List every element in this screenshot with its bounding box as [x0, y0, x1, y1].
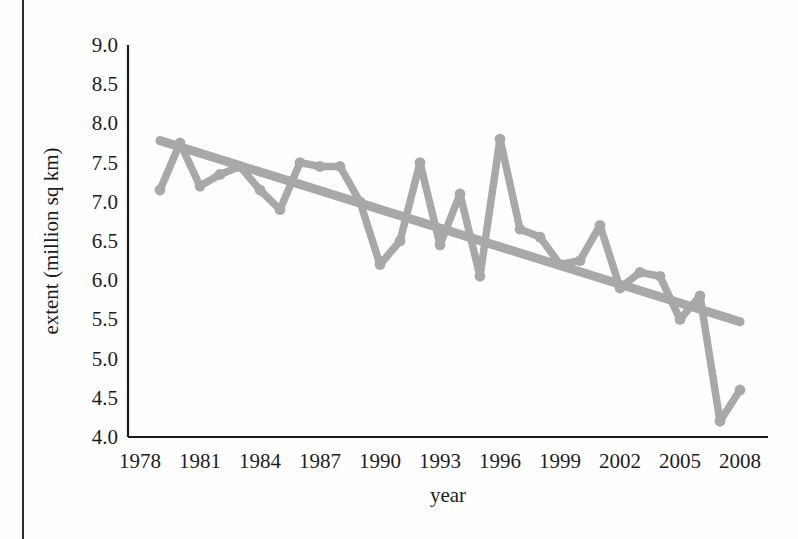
- data-point-marker: [735, 385, 746, 396]
- x-tick-label: 1984: [239, 449, 282, 473]
- data-point-marker: [475, 271, 486, 282]
- data-point-marker: [295, 157, 306, 168]
- data-point-marker: [355, 196, 366, 207]
- x-tick-label: 1978: [119, 449, 161, 473]
- y-axis-title: extent (million sq km): [39, 147, 63, 334]
- data-point-marker: [155, 185, 166, 196]
- x-tick-label: 2005: [659, 449, 701, 473]
- data-point-marker: [215, 169, 226, 180]
- data-point-marker: [255, 185, 266, 196]
- x-tick-label: 1987: [299, 449, 341, 473]
- data-point-marker: [575, 255, 586, 266]
- x-tick-label: 1999: [539, 449, 581, 473]
- chart-axes: [128, 45, 768, 437]
- x-axis-title: year: [430, 483, 466, 507]
- data-point-marker: [695, 291, 706, 302]
- x-tick-label: 2002: [599, 449, 641, 473]
- y-tick-label: 5.5: [92, 307, 118, 331]
- data-point-marker: [435, 240, 446, 251]
- data-point-marker: [715, 416, 726, 427]
- data-point-marker: [195, 181, 206, 192]
- x-tick-labels: 1978198119841987199019931996199920022005…: [119, 449, 761, 473]
- y-tick-label: 4.0: [92, 425, 118, 449]
- data-point-marker: [455, 189, 466, 200]
- data-point-marker: [555, 259, 566, 270]
- x-tick-label: 1981: [179, 449, 221, 473]
- trend-line: [160, 141, 740, 322]
- data-point-marker: [175, 138, 186, 149]
- page-canvas: 4.04.55.05.56.06.57.07.58.08.59.0 197819…: [0, 0, 798, 539]
- y-tick-label: 6.0: [92, 268, 118, 292]
- data-point-marker: [395, 236, 406, 247]
- data-point-marker: [495, 134, 506, 145]
- data-point-marker: [335, 161, 346, 172]
- data-point-marker: [595, 220, 606, 231]
- data-point-marker: [415, 157, 426, 168]
- line-chart: 4.04.55.05.56.06.57.07.58.08.59.0 197819…: [0, 0, 798, 539]
- figure-container: 4.04.55.05.56.06.57.07.58.08.59.0 197819…: [0, 0, 798, 539]
- y-tick-labels: 4.04.55.05.56.06.57.07.58.08.59.0: [92, 33, 118, 449]
- data-point-marker: [515, 224, 526, 235]
- y-tick-label: 8.5: [92, 72, 118, 96]
- data-point-marker: [275, 204, 286, 215]
- data-point-marker: [375, 259, 386, 270]
- data-point-marker: [615, 283, 626, 294]
- y-tick-label: 8.0: [92, 111, 118, 135]
- x-tick-label: 2008: [719, 449, 761, 473]
- y-tick-label: 7.0: [92, 190, 118, 214]
- data-point-marker: [535, 232, 546, 243]
- y-tick-label: 6.5: [92, 229, 118, 253]
- data-point-marker: [235, 161, 246, 172]
- y-tick-label: 7.5: [92, 151, 118, 175]
- data-series-markers: [155, 134, 746, 427]
- data-point-marker: [315, 161, 326, 172]
- x-tick-label: 1993: [419, 449, 461, 473]
- data-point-marker: [675, 314, 686, 325]
- x-tick-label: 1996: [479, 449, 521, 473]
- y-tick-label: 4.5: [92, 386, 118, 410]
- data-series-line: [160, 139, 740, 421]
- y-tick-label: 9.0: [92, 33, 118, 57]
- x-tick-label: 1990: [359, 449, 401, 473]
- data-point-marker: [635, 267, 646, 278]
- y-tick-label: 5.0: [92, 347, 118, 371]
- data-point-marker: [655, 271, 666, 282]
